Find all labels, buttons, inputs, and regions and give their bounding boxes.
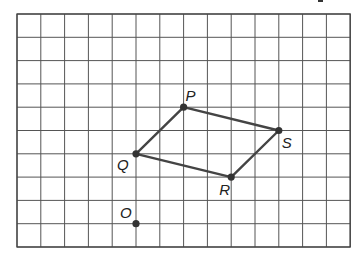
points: PQRSO — [117, 87, 292, 227]
point-o-marker — [132, 220, 139, 227]
grid-canvas: PQRSO — [0, 0, 362, 255]
point-p-label: P — [186, 87, 196, 104]
grid-lines — [17, 14, 350, 247]
point-r-label: R — [219, 181, 230, 198]
point-q-marker — [132, 150, 139, 157]
point-q-label: Q — [117, 156, 129, 173]
point-s-label: S — [282, 134, 292, 151]
point-p-marker — [180, 104, 187, 111]
point-r-marker — [228, 174, 235, 181]
grid-diagram: PQRSO — [0, 0, 362, 255]
point-o-label: O — [120, 204, 132, 221]
cropped-text-mark — [318, 0, 323, 2]
